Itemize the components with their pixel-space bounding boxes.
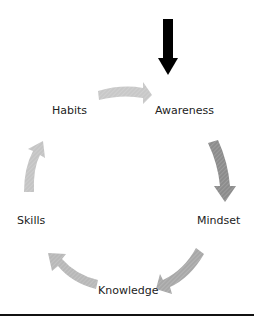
entry-arrow-icon [158, 19, 178, 75]
arrow-mindset-to-knowledge [156, 248, 204, 294]
node-skills: Skills [17, 214, 45, 227]
arrow-habits-to-awareness [98, 82, 152, 104]
node-mindset: Mindset [197, 214, 240, 227]
arrow-awareness-to-mindset [208, 140, 236, 202]
arrow-skills-to-habits [24, 141, 45, 192]
node-awareness: Awareness [155, 104, 214, 117]
node-habits: Habits [52, 104, 87, 117]
arrow-knowledge-to-skills [48, 253, 98, 289]
node-knowledge: Knowledge [98, 284, 158, 297]
